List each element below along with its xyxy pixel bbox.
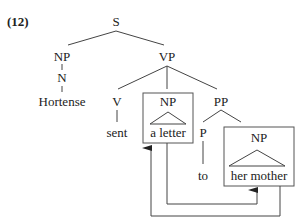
word-her-mother: her mother (231, 168, 288, 183)
word-hortense: Hortense (39, 94, 86, 109)
edge-vp-v (118, 66, 167, 89)
node-vp: VP (159, 49, 176, 64)
node-pp-np: NP (251, 130, 268, 145)
edge-s-vp (116, 31, 164, 45)
node-v: V (112, 94, 122, 109)
example-number: (12) (7, 14, 29, 29)
node-s: S (112, 14, 119, 29)
word-to: to (198, 168, 208, 183)
edge-s-np (68, 31, 116, 45)
node-object-np: NP (160, 94, 177, 109)
node-p: P (199, 125, 206, 140)
edge-vp-pp (167, 66, 217, 89)
edge-pp-p (203, 110, 221, 122)
triangle-object-np (150, 112, 186, 124)
node-subject-np: NP (54, 49, 71, 64)
syntax-tree-diagram: (12) S NP N Hortense VP V sent NP a lett… (0, 0, 306, 224)
triangle-pp-np (229, 150, 285, 166)
node-n: N (57, 70, 67, 85)
word-a-letter: a letter (150, 125, 186, 140)
node-pp: PP (214, 94, 228, 109)
word-sent: sent (107, 125, 128, 140)
edge-pp-np (221, 110, 241, 122)
